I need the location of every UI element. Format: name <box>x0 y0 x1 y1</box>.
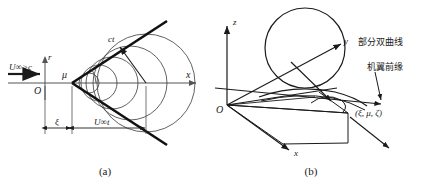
panel-a-origin-label: O <box>34 85 41 96</box>
base-projection-quad <box>227 105 348 144</box>
panel-a-axis-r-label: r <box>48 52 52 62</box>
panel-b-axis-x-label: x <box>293 148 298 158</box>
wave-radius-arrow <box>120 47 146 83</box>
mach-angle-label: μ <box>61 69 67 80</box>
dim-xi-label: ξ <box>55 117 59 127</box>
panel-a-axis-x-label: x <box>185 69 191 80</box>
wing-leading-edge-label: 机翼前缘 <box>367 61 403 72</box>
panel-a-mach-cone: U∞>c O x r μ ct ξ U∞t (a) <box>0 0 215 186</box>
partial-hyperbola-label: 部分双曲线 <box>358 36 403 47</box>
panel-b-axis-y-label: y <box>343 36 348 46</box>
panel-b-axis-z-label: z <box>232 17 237 27</box>
mach-cone-upper-line <box>72 21 167 83</box>
panel-b-svg: z O y x 部分双曲线 机翼前缘 (ξ, μ, ζ) (b) <box>215 0 431 186</box>
sphere-to-point-pointer <box>291 62 331 101</box>
point-leader-arrow <box>350 117 389 148</box>
panel-a-svg: U∞>c O x r μ ct ξ U∞t (a) <box>0 0 215 186</box>
figure-container: U∞>c O x r μ ct ξ U∞t (a) <box>0 0 431 186</box>
panel-a-flow-label: U∞>c <box>9 62 32 72</box>
dim-ut-label: U∞t <box>94 117 110 127</box>
wing-leading-edge-line <box>215 88 381 104</box>
panel-b-caption: (b) <box>305 165 318 178</box>
panel-b-3d-geometry: z O y x 部分双曲线 机翼前缘 (ξ, μ, ζ) (b) <box>215 0 431 186</box>
leading-edge-leader <box>375 72 381 100</box>
wave-radius-label: ct <box>108 34 115 44</box>
panel-a-caption: (a) <box>99 165 112 178</box>
panel-b-origin-label: O <box>216 104 223 115</box>
point-coords-label: (ξ, μ, ζ) <box>355 108 382 118</box>
mach-cone-lower-line <box>72 83 167 145</box>
